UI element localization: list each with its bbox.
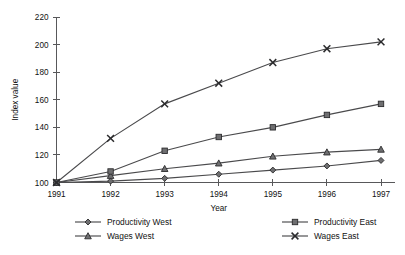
y-tick-label: 180 — [35, 68, 49, 77]
data-point — [269, 59, 276, 66]
x-tick-label: 1993 — [156, 190, 175, 199]
data-point — [216, 171, 222, 177]
x-axis-title: Year — [210, 204, 227, 213]
y-axis-title: Index value — [11, 78, 20, 120]
legend-item-productivity-west[interactable]: Productivity West — [75, 217, 172, 227]
y-tick-label: 220 — [35, 13, 49, 22]
legend-item-wages-east[interactable]: Wages East — [282, 231, 360, 241]
y-tick-label: 100 — [35, 179, 49, 188]
y-tick-label: 140 — [35, 123, 49, 132]
x-axis: 1991199219931994199519961997 Year — [47, 179, 395, 213]
data-point — [108, 178, 114, 184]
legend-label: Productivity West — [107, 217, 172, 227]
legend-label: Productivity East — [314, 217, 377, 227]
y-tick-label: 160 — [35, 96, 49, 105]
legend-marker — [292, 219, 297, 224]
data-point — [161, 100, 168, 107]
data-point — [216, 134, 221, 139]
x-tick-label: 1992 — [101, 190, 120, 199]
data-point — [107, 135, 114, 142]
data-point — [215, 80, 222, 87]
data-point — [324, 112, 329, 117]
legend-item-wages-west[interactable]: Wages West — [75, 231, 155, 241]
y-tick-label: 120 — [35, 151, 49, 160]
data-point — [270, 167, 276, 173]
x-tick-label: 1997 — [372, 190, 391, 199]
x-tick-label: 1996 — [318, 190, 337, 199]
legend-label: Wages West — [107, 231, 155, 241]
data-point — [162, 175, 168, 181]
data-point — [324, 163, 330, 169]
data-point — [108, 169, 113, 174]
legend-marker — [85, 219, 91, 225]
x-tick-label: 1995 — [264, 190, 283, 199]
data-point — [378, 157, 384, 163]
data-point — [378, 101, 383, 106]
y-axis: 100120140160180200220 Index value — [11, 13, 60, 188]
chart-legend: Productivity WestWages WestProductivity … — [75, 217, 377, 241]
data-point — [270, 125, 275, 130]
line-chart: 100120140160180200220 Index value 199119… — [0, 0, 405, 255]
x-tick-label: 1991 — [47, 190, 66, 199]
legend-item-productivity-east[interactable]: Productivity East — [282, 217, 377, 227]
y-tick-label: 200 — [35, 41, 49, 50]
legend-label: Wages East — [314, 231, 360, 241]
data-point — [162, 148, 167, 153]
series-layer — [53, 38, 384, 185]
x-tick-label: 1994 — [210, 190, 229, 199]
chart-canvas: 100120140160180200220 Index value 199119… — [0, 0, 405, 255]
